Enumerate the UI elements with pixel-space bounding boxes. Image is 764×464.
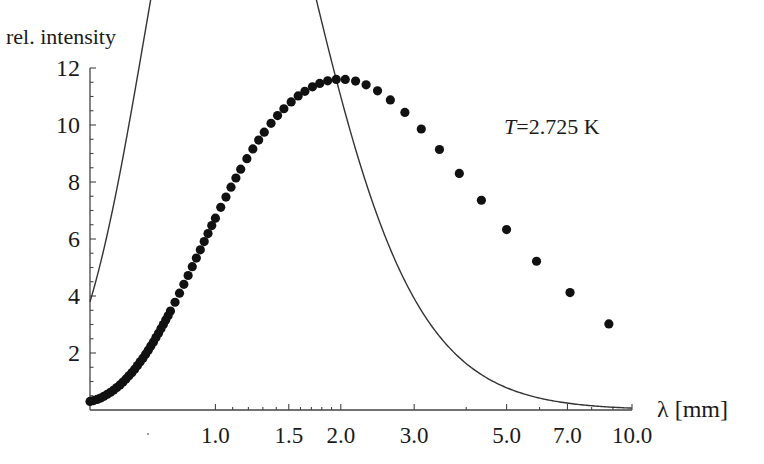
y-tick-label: 6 (68, 226, 80, 252)
data-point (532, 257, 541, 266)
x-axis: 1.01.52.03.05.07.010.0 (90, 404, 652, 448)
data-point (216, 203, 225, 212)
data-point (502, 225, 511, 234)
data-point (179, 280, 188, 289)
data-point (435, 145, 444, 154)
data-point (226, 183, 235, 192)
data-point (477, 196, 486, 205)
stray-dot (147, 433, 149, 435)
temperature-value: =2.725 K (516, 114, 599, 139)
chart: 24681012 1.01.52.03.05.07.010.0 rel. int… (0, 0, 764, 464)
x-tick-label: 5.0 (492, 423, 521, 448)
data-point (254, 136, 263, 145)
data-point (231, 173, 240, 182)
data-point (400, 108, 409, 117)
data-point (184, 271, 193, 280)
data-point (279, 104, 288, 113)
data-point (332, 75, 341, 84)
data-point (192, 254, 201, 263)
y-axis-label: rel. intensity (6, 24, 116, 49)
data-point (341, 75, 350, 84)
data-point (242, 154, 251, 163)
data-point (188, 262, 197, 271)
data-point (362, 80, 371, 89)
data-point (260, 128, 269, 137)
fit-curve (90, 0, 632, 408)
x-tick-label: 10.0 (612, 423, 652, 448)
data-point (196, 245, 205, 254)
y-tick-label: 10 (56, 112, 80, 138)
data-point (323, 76, 332, 85)
x-tick-label: 7.0 (553, 423, 582, 448)
data-point (417, 124, 426, 133)
y-tick-label: 2 (68, 340, 80, 366)
y-tick-label: 8 (68, 169, 80, 195)
data-point (386, 95, 395, 104)
y-tick-label: 4 (68, 283, 80, 309)
data-point (373, 86, 382, 95)
data-point (248, 144, 257, 153)
y-tick-label: 12 (56, 55, 80, 81)
y-axis: 24681012 (56, 55, 96, 410)
data-point (170, 298, 179, 307)
data-point (166, 307, 175, 316)
data-point (315, 79, 324, 88)
x-tick-label: 1.0 (201, 423, 230, 448)
data-point (175, 289, 184, 298)
data-point (236, 165, 245, 174)
data-point (221, 193, 230, 202)
x-tick-label: 2.0 (326, 423, 355, 448)
data-point (273, 111, 282, 120)
data-point (287, 97, 296, 106)
x-tick-label: 3.0 (400, 423, 429, 448)
data-point (351, 77, 360, 86)
x-tick-label: 1.5 (274, 423, 303, 448)
temperature-annotation: T=2.725 K (504, 114, 600, 139)
data-point (455, 169, 464, 178)
data-point (200, 237, 209, 246)
x-axis-label: λ [mm] (657, 396, 728, 422)
data-point (211, 214, 220, 223)
data-point (266, 119, 275, 128)
data-point (203, 229, 212, 238)
data-point (604, 319, 613, 328)
data-point (565, 288, 574, 297)
